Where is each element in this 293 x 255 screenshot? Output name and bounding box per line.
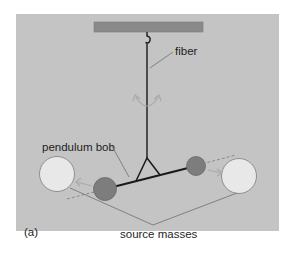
pendulum-bob-label: pendulum bob <box>42 141 115 153</box>
panel-label: (a) <box>24 226 38 238</box>
source-mass-right <box>222 159 257 194</box>
source-mass-left <box>40 157 75 192</box>
diagram-canvas: fiber pendulum bob <box>0 0 293 255</box>
pendulum-bob-right <box>187 157 206 176</box>
pendulum-bob-left <box>94 178 117 201</box>
fiber-label: fiber <box>175 45 198 57</box>
torsion-pendulum-figure: fiber pendulum bob <box>0 0 293 255</box>
ceiling-bar <box>94 22 203 32</box>
source-masses-label: source masses <box>120 228 198 240</box>
